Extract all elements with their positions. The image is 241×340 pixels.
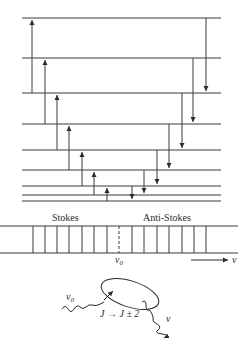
scattered-photon-wave bbox=[142, 301, 167, 338]
anti-stokes-label: Anti-Stokes bbox=[143, 212, 191, 223]
transitions bbox=[32, 18, 206, 201]
frequency-axis-label: ν bbox=[232, 254, 237, 265]
raman-diagram: Stokes Anti-Stokes ν0 ν ν0 ν J → J ± 2 bbox=[0, 0, 241, 340]
incident-photon-wave bbox=[62, 302, 104, 312]
incident-nu0-label: ν0 bbox=[66, 291, 74, 304]
selection-rule-label: J → J ± 2 bbox=[100, 308, 139, 319]
scattered-nu-label: ν bbox=[166, 313, 171, 324]
molecule-axis-arrow bbox=[104, 291, 113, 300]
nu0-label: ν0 bbox=[115, 254, 123, 267]
stokes-label: Stokes bbox=[52, 212, 79, 223]
energy-levels bbox=[22, 18, 221, 201]
